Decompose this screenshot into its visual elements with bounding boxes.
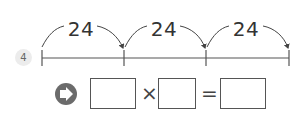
jump-label-2: 24 (144, 17, 184, 41)
multiply-sign: × (141, 80, 158, 106)
answer-box-result[interactable] (220, 78, 266, 109)
equals-sign: = (201, 80, 218, 106)
jump-label-3: 24 (226, 17, 266, 41)
answer-box-multiplicand[interactable] (90, 78, 136, 109)
arrow-right-circle-icon (55, 83, 77, 105)
problem-4: 4 24 24 24 × = (0, 0, 308, 114)
jump-label-1: 24 (61, 17, 101, 41)
answer-box-multiplier[interactable] (158, 78, 196, 109)
